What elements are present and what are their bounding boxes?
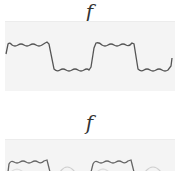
bottom-square-wave	[5, 140, 175, 171]
top-plot-panel	[5, 21, 175, 91]
top-square-wave	[5, 22, 175, 91]
top-label: f	[0, 2, 179, 22]
bottom-plot-panel	[5, 139, 175, 171]
bottom-label: f	[0, 113, 179, 133]
